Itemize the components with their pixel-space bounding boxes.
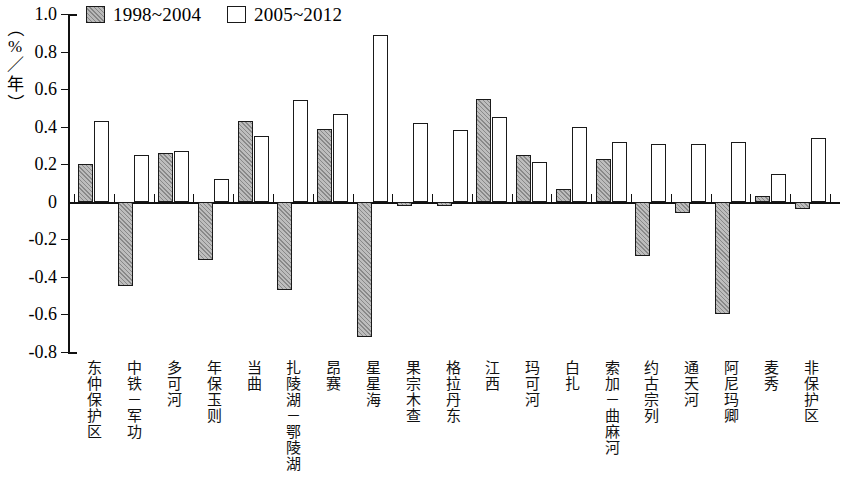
bar-0-16 bbox=[715, 202, 730, 315]
x-axis-tick bbox=[711, 194, 712, 202]
bar-1-4 bbox=[254, 136, 269, 202]
x-axis-category-label: 江西 bbox=[484, 360, 500, 392]
y-axis-line bbox=[68, 14, 70, 352]
bar-0-3 bbox=[198, 202, 213, 260]
bar-1-3 bbox=[214, 179, 229, 202]
bar-0-4 bbox=[238, 121, 253, 202]
bar-1-8 bbox=[413, 123, 428, 202]
x-axis-category-label: 玛可河 bbox=[524, 360, 540, 408]
bar-1-5 bbox=[293, 100, 308, 201]
x-axis-tick bbox=[392, 194, 393, 202]
bar-1-17 bbox=[771, 174, 786, 202]
x-axis-tick bbox=[551, 194, 552, 202]
y-axis-cap bbox=[68, 14, 77, 16]
bar-1-15 bbox=[691, 144, 706, 202]
y-axis-tick-label: 1.0 bbox=[35, 5, 58, 23]
x-axis-tick bbox=[631, 194, 632, 202]
y-axis-tick bbox=[61, 164, 68, 165]
bar-1-7 bbox=[373, 35, 388, 202]
y-axis-tick bbox=[61, 14, 68, 15]
x-axis-tick bbox=[790, 194, 791, 202]
y-axis-title: （ % ／ 年 ） bbox=[2, 20, 28, 111]
bar-0-7 bbox=[357, 202, 372, 337]
bar-0-15 bbox=[675, 202, 690, 213]
x-axis-category-label: 非保护区 bbox=[802, 360, 818, 424]
bar-1-16 bbox=[731, 142, 746, 202]
chart-root: 1998~2004 2005~2012 （ % ／ 年 ） 1.00.80.60… bbox=[0, 0, 841, 498]
x-axis-tick bbox=[472, 194, 473, 202]
y-axis-tick bbox=[61, 352, 68, 353]
x-axis-tick bbox=[750, 194, 751, 202]
plot-area: 1.00.80.60.40.20-0.2-0.4-0.6-0.8 bbox=[68, 14, 840, 352]
x-axis-tick bbox=[671, 194, 672, 202]
bar-0-12 bbox=[556, 189, 571, 202]
x-axis-category-label: 当曲 bbox=[245, 360, 261, 392]
bar-0-6 bbox=[317, 129, 332, 202]
y-axis-tick-label: -0.2 bbox=[29, 230, 58, 248]
x-axis-category-label: 格拉丹东 bbox=[444, 360, 460, 424]
y-axis-tick-label: -0.8 bbox=[29, 343, 58, 361]
x-axis-tick bbox=[74, 194, 75, 202]
x-axis-category-label: 东仲保护区 bbox=[86, 360, 102, 440]
x-axis-category-label: 阿尼玛卿 bbox=[723, 360, 739, 424]
y-axis-tick bbox=[61, 52, 68, 53]
x-axis-tick bbox=[591, 194, 592, 202]
x-axis-category-label: 年保玉则 bbox=[205, 360, 221, 424]
bar-1-11 bbox=[532, 162, 547, 201]
x-axis-category-label: 白扎 bbox=[563, 360, 579, 392]
bar-0-13 bbox=[596, 159, 611, 202]
y-axis-tick-label: 0.6 bbox=[35, 80, 58, 98]
y-axis-tick bbox=[61, 89, 68, 90]
bar-0-8 bbox=[397, 202, 412, 206]
x-axis-category-label: 通天河 bbox=[683, 360, 699, 408]
bar-0-1 bbox=[118, 202, 133, 287]
bar-0-11 bbox=[516, 155, 531, 202]
x-axis-category-label: 果宗木查 bbox=[404, 360, 420, 424]
x-axis-tick bbox=[193, 194, 194, 202]
y-axis-title-char-0: （ bbox=[7, 16, 24, 42]
x-axis-category-label: 扎陵湖－鄂陵湖 bbox=[285, 360, 301, 472]
x-axis-category-label: 约古宗列 bbox=[643, 360, 659, 424]
x-axis-tick bbox=[353, 194, 354, 202]
x-axis-category-label: 星星海 bbox=[364, 360, 380, 408]
x-axis-tick bbox=[512, 194, 513, 202]
bar-1-14 bbox=[651, 144, 666, 202]
y-axis-title-char-4: ） bbox=[7, 90, 24, 116]
y-axis-tick bbox=[61, 127, 68, 128]
x-axis-tick bbox=[154, 194, 155, 202]
x-axis-tick bbox=[233, 194, 234, 202]
bar-1-0 bbox=[94, 121, 109, 202]
y-axis-title-char-2: ／ bbox=[2, 56, 28, 75]
x-axis-category-label: 麦秀 bbox=[762, 360, 778, 392]
x-axis-tick bbox=[273, 194, 274, 202]
x-axis-tick bbox=[830, 194, 831, 202]
x-axis-tick bbox=[432, 194, 433, 202]
bar-1-2 bbox=[174, 151, 189, 202]
bar-0-18 bbox=[795, 202, 810, 210]
y-axis-tick-label: 0 bbox=[48, 193, 57, 211]
y-axis-tick-label: -0.6 bbox=[29, 305, 58, 323]
x-axis-tick bbox=[313, 194, 314, 202]
x-axis-category-label: 索加－曲麻河 bbox=[603, 360, 619, 456]
x-axis-category-label: 中铁－军功 bbox=[126, 360, 142, 440]
y-axis-tick-label: -0.4 bbox=[29, 268, 58, 286]
bar-1-18 bbox=[811, 138, 826, 202]
y-axis-tick-label: 0.8 bbox=[35, 43, 58, 61]
y-axis-tick-label: 0.4 bbox=[35, 118, 58, 136]
bar-0-10 bbox=[476, 99, 491, 202]
bar-1-10 bbox=[492, 117, 507, 202]
bar-0-14 bbox=[635, 202, 650, 256]
bar-1-1 bbox=[134, 155, 149, 202]
x-axis-category-label: 多可河 bbox=[165, 360, 181, 408]
bar-0-9 bbox=[437, 202, 452, 206]
y-axis-cap bbox=[68, 352, 77, 354]
x-axis-category-label: 昂赛 bbox=[325, 360, 341, 392]
x-axis-tick bbox=[114, 194, 115, 202]
bar-0-2 bbox=[158, 153, 173, 202]
y-axis-tick bbox=[61, 239, 68, 240]
y-axis-tick bbox=[61, 314, 68, 315]
bar-0-0 bbox=[78, 164, 93, 202]
bar-1-13 bbox=[612, 142, 627, 202]
bar-1-9 bbox=[453, 130, 468, 201]
y-axis-tick-label: 0.2 bbox=[35, 155, 58, 173]
